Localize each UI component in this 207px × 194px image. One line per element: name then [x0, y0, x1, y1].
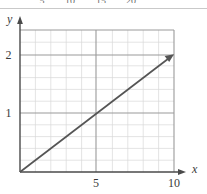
graph-figure: 5 10 15 20 [0, 0, 207, 194]
x-tick-label-10: 10 [163, 177, 185, 189]
y-axis-arrowhead [17, 16, 23, 24]
x-axis-label: x [192, 163, 197, 175]
plot-canvas [0, 0, 207, 194]
x-axis-arrowhead [178, 169, 186, 175]
axes [17, 16, 186, 175]
x-tick-label-5: 5 [89, 177, 103, 189]
y-tick-label-2: 2 [2, 49, 15, 61]
y-axis-label: y [7, 13, 12, 25]
grid-minor-lines [20, 30, 174, 172]
y-tick-label-1: 1 [2, 107, 15, 119]
